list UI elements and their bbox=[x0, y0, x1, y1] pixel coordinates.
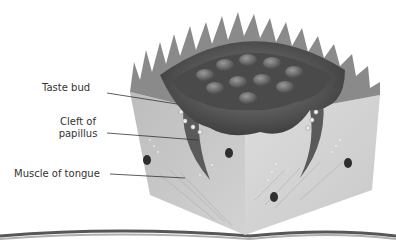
gland bbox=[344, 158, 352, 168]
gland bbox=[270, 192, 278, 202]
label-cleft-of-papillus: Cleft of papillus bbox=[52, 116, 104, 140]
label-taste-bud: Taste bud bbox=[42, 82, 90, 94]
label-muscle-of-tongue: Muscle of tongue bbox=[14, 168, 100, 180]
label-cleft-line2: papillus bbox=[52, 128, 104, 140]
tongue-diagram: Taste bud Cleft of papillus Muscle of to… bbox=[0, 0, 396, 245]
floor-line bbox=[0, 231, 396, 239]
label-cleft-line1: Cleft of bbox=[52, 116, 104, 128]
gland bbox=[143, 155, 151, 165]
gland bbox=[225, 148, 233, 158]
